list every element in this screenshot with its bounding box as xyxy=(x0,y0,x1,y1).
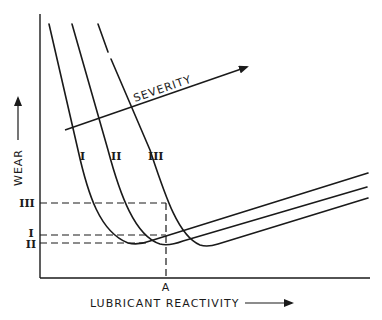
curve-I-label: I xyxy=(80,150,85,163)
curve-II-label: II xyxy=(111,150,121,163)
y-axis-label: WEAR xyxy=(12,98,25,186)
curve-III-label: III xyxy=(148,150,163,163)
level-III-label: III xyxy=(19,197,34,210)
wear-label: WEAR xyxy=(12,149,25,186)
lubricant-reactivity-label: LUBRICANT REACTIVITY xyxy=(90,297,240,310)
x-axis-label: LUBRICANT REACTIVITY xyxy=(90,297,292,310)
wear-vs-reactivity-diagram: WEAR LUBRICANT REACTIVITY SEVERITY I II … xyxy=(0,0,382,320)
point-a-label: A xyxy=(162,281,171,294)
severity-arrow-icon xyxy=(65,67,247,130)
level-II-label: II xyxy=(26,238,36,251)
curve-III xyxy=(98,24,368,246)
curve-I xyxy=(49,24,368,244)
